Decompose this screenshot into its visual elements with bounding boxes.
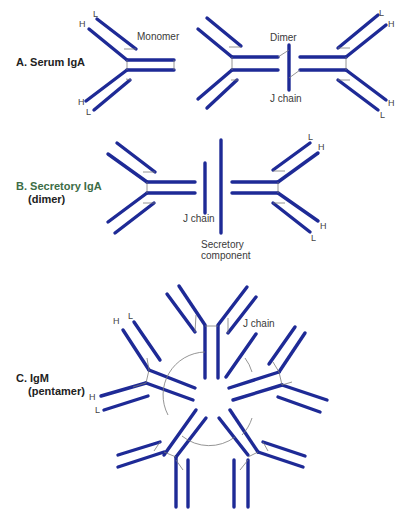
secretory-label-line2: component	[201, 250, 250, 261]
section-a-title: A. Serum IgA	[16, 56, 85, 69]
igm-pentamer	[101, 286, 327, 507]
secretory-label-line1: Secretory	[201, 239, 244, 250]
jchain-label-c: J chain	[243, 318, 275, 329]
section-b-subtitle: (dimer)	[16, 193, 102, 206]
heavy-chain-label: H	[79, 19, 86, 29]
jchain-label-a: J chain	[270, 93, 302, 104]
heavy-chain-label: H	[89, 392, 96, 402]
heavy-chain-label: H	[78, 97, 85, 107]
section-b-title-text: B. Secretory IgA	[16, 180, 102, 192]
light-chain-label: L	[86, 107, 91, 117]
secretory-component-label: Secretory component	[201, 239, 250, 261]
light-chain-label: L	[311, 233, 316, 243]
section-c-title-text: C. IgM	[16, 372, 49, 384]
heavy-chain-label: H	[320, 221, 327, 231]
light-chain-label: L	[93, 9, 98, 19]
section-c-subtitle: (pentamer)	[16, 385, 85, 398]
section-b-title: B. Secretory IgA (dimer)	[16, 180, 102, 206]
light-chain-label: L	[379, 8, 384, 18]
light-chain-label: L	[308, 132, 313, 142]
section-c-title: C. IgM (pentamer)	[16, 372, 85, 398]
heavy-chain-label: H	[388, 98, 395, 108]
immunoglobulin-diagram	[0, 0, 408, 525]
dimer-label: Dimer	[270, 32, 297, 43]
heavy-chain-label: H	[318, 142, 325, 152]
heavy-chain-label: H	[388, 19, 395, 29]
light-chain-label: L	[128, 311, 133, 321]
jchain-label-b: J chain	[183, 213, 215, 224]
monomer-label: Monomer	[137, 31, 179, 42]
heavy-chain-label: H	[113, 316, 120, 326]
light-chain-label: L	[95, 405, 100, 415]
light-chain-label: L	[380, 110, 385, 120]
